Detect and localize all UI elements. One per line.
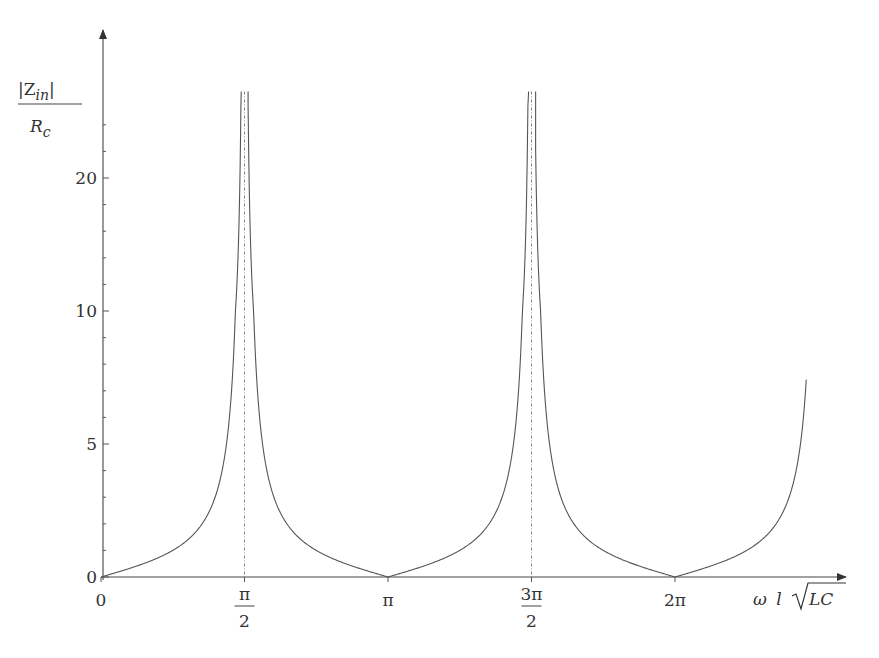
asymptote-lines [245,92,532,577]
y-tick-label: 20 [75,168,97,188]
x-tick-label: 0 [96,590,107,610]
x-axis-label: ω l LC [753,583,846,609]
curve-segment [248,92,529,577]
x-tick-label-denominator: 2 [526,611,537,631]
x-label-l: l [776,589,781,609]
x-label-omega: ω [753,589,767,609]
y-label-numerator-close: | [49,79,55,99]
y-tick-label: 10 [75,301,97,321]
y-label-numerator: |Z [18,79,36,99]
y-label-denominator-sub: c [43,124,51,140]
x-tick-label-denominator: 2 [239,611,250,631]
y-ticks: 051020 [75,125,109,587]
y-tick-label: 0 [86,567,97,587]
chart-canvas: 051020 0π2π3π22π |Zin| Rc ω l LC [0,0,879,658]
x-ticks: 0π2π3π22π [96,577,686,631]
svg-text:|Zin|: |Zin| [18,79,55,103]
curve-segment [536,92,807,577]
x-tick-label: 2π [664,590,686,610]
x-tick-label-numerator: π [239,584,250,604]
x-tick-label: π [382,590,393,610]
y-label-numerator-sub: in [36,87,50,103]
y-label-denominator: R [29,116,43,136]
impedance-curve [101,92,806,577]
y-tick-label: 5 [86,434,97,454]
x-label-sqrt-arg: LC [808,589,833,609]
svg-text:ω l: ω l [753,589,782,609]
y-axis-label: |Zin| Rc [18,79,82,140]
curve-segment [101,92,241,577]
x-tick-label-numerator: 3π [521,584,543,604]
svg-text:Rc: Rc [29,116,51,140]
